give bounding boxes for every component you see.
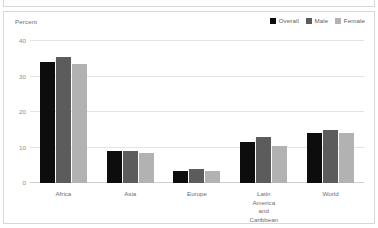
bar-groups: AfricaAsiaEuropeLatin America and Caribb… — [30, 41, 364, 183]
bar[interactable] — [240, 142, 255, 183]
legend-swatch-icon — [270, 18, 276, 24]
x-axis-category-label: Europe — [187, 190, 207, 199]
bar[interactable] — [173, 171, 188, 183]
x-axis-category-label: Latin America and Caribbean — [247, 190, 280, 224]
bar[interactable] — [272, 146, 287, 183]
bar[interactable] — [205, 171, 220, 183]
bar-group: World — [297, 41, 364, 183]
bar-group: Asia — [97, 41, 164, 183]
legend-swatch-icon — [306, 18, 312, 24]
bar[interactable] — [323, 130, 338, 183]
legend-swatch-icon — [335, 18, 341, 24]
bar-group: Europe — [164, 41, 231, 183]
bar[interactable] — [72, 64, 87, 183]
legend-item[interactable]: Female — [335, 17, 365, 24]
y-axis-tick-label: 10 — [19, 143, 26, 150]
bar-group: Africa — [30, 41, 97, 183]
legend-label: Male — [314, 17, 328, 24]
legend-item[interactable]: Overall — [270, 17, 299, 24]
bar[interactable] — [256, 137, 271, 183]
x-axis-category-label: World — [323, 190, 339, 199]
bar[interactable] — [139, 153, 154, 183]
bar[interactable] — [307, 133, 322, 183]
y-axis-tick-label: 0 — [23, 179, 26, 186]
bar[interactable] — [107, 151, 122, 183]
bar[interactable] — [189, 169, 204, 183]
bar[interactable] — [56, 57, 71, 183]
y-axis-title: Percent — [15, 18, 37, 25]
plot-area: 010203040 AfricaAsiaEuropeLatin America … — [30, 41, 364, 183]
bar-group: Latin America and Caribbean — [230, 41, 297, 183]
bar[interactable] — [339, 133, 354, 183]
bar[interactable] — [40, 62, 55, 183]
top-panel-strip — [3, 0, 375, 7]
legend-label: Overall — [279, 17, 299, 24]
y-axis-tick-label: 30 — [19, 72, 26, 79]
x-axis-category-label: Africa — [55, 190, 71, 199]
legend-label: Female — [344, 17, 365, 24]
legend-item[interactable]: Male — [306, 17, 328, 24]
bar[interactable] — [123, 151, 138, 183]
chart-panel: Percent OverallMaleFemale 010203040 Afri… — [3, 11, 375, 224]
x-axis-category-label: Asia — [124, 190, 136, 199]
chart-legend: OverallMaleFemale — [270, 17, 365, 24]
y-axis-tick-label: 40 — [19, 37, 26, 44]
y-axis-tick-label: 20 — [19, 108, 26, 115]
